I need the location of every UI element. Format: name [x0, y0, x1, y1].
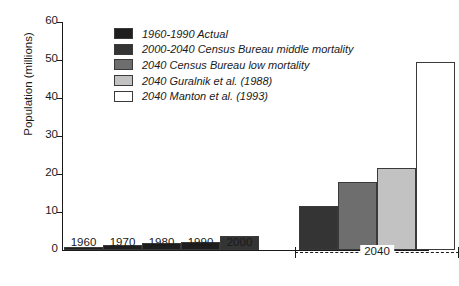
tick-label: 50 — [45, 52, 58, 64]
legend-item-2: 2040 Census Bureau low mortality — [114, 57, 354, 73]
legend-label-3: 2040 Guralnik et al. (1988) — [142, 75, 272, 87]
x-label-1970: 1970 — [103, 236, 142, 248]
legend-item-3: 2040 Guralnik et al. (1988) — [114, 73, 354, 89]
legend-swatch-0 — [114, 28, 133, 39]
legend-item-0: 1960-1990 Actual — [114, 26, 354, 42]
tick-label: 30 — [45, 128, 58, 140]
legend-label-4: 2040 Manton et al. (1993) — [142, 90, 268, 102]
y-axis-title: Population (millions) — [22, 4, 34, 164]
y-axis-line — [62, 22, 63, 250]
legend-label-0: 1960-1990 Actual — [142, 28, 228, 40]
legend-swatch-4 — [114, 91, 133, 102]
legend-label-2: 2040 Census Bureau low mortality — [142, 59, 310, 71]
bar-2040-8 — [416, 62, 455, 250]
x-label-1990: 1990 — [181, 236, 220, 248]
tick-label: 40 — [45, 90, 58, 102]
bar-2040-6 — [338, 182, 377, 250]
legend-item-4: 2040 Manton et al. (1993) — [114, 88, 354, 104]
x-label-1980: 1980 — [142, 236, 181, 248]
bracket-cap-left — [295, 247, 296, 258]
year-2040-bracket: 2040 — [295, 247, 459, 259]
tick-label: 0 — [52, 242, 58, 254]
x-label-2000: 2000 — [220, 236, 259, 248]
bar-2040-7 — [377, 168, 416, 250]
tick-label: 60 — [45, 14, 58, 26]
tick-label: 10 — [45, 204, 58, 216]
x-label-1960: 1960 — [64, 236, 103, 248]
legend-swatch-3 — [114, 75, 133, 86]
legend-label-1: 2000-2040 Census Bureau middle mortality — [142, 43, 354, 55]
bracket-label: 2040 — [360, 245, 394, 257]
chart-legend: 1960-1990 Actual2000-2040 Census Bureau … — [114, 26, 354, 104]
legend-swatch-2 — [114, 59, 133, 70]
legend-swatch-1 — [114, 44, 133, 55]
tick-label: 20 — [45, 166, 58, 178]
legend-item-1: 2000-2040 Census Bureau middle mortality — [114, 42, 354, 58]
bar-2040-5 — [299, 206, 338, 250]
